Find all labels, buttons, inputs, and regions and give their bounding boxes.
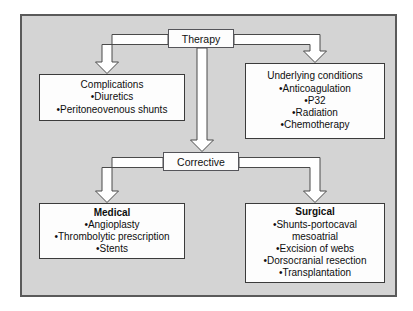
diagram-canvas: Therapy Corrective Complications •Diuret… (0, 0, 413, 311)
node-corrective-label: Corrective (177, 156, 225, 168)
box-medical-item: •Stents (96, 243, 128, 255)
arrow-therapy-to-corrective (191, 48, 214, 152)
box-medical-item: •Thrombolytic prescription (54, 231, 169, 243)
arrow-therapy-to-complications (96, 35, 169, 74)
box-underlying-conditions[interactable]: Underlying conditions •Anticoagulation •… (245, 63, 385, 139)
arrow-corrective-to-surgical (239, 158, 327, 203)
box-underlying-item: •Chemotherapy (280, 119, 349, 131)
arrow-corrective-to-medical (96, 158, 164, 203)
box-complications[interactable]: Complications •Diuretics •Peritoneovenou… (39, 74, 185, 121)
box-complications-item: •Diuretics (91, 91, 133, 103)
box-medical[interactable]: Medical •Angioplasty •Thrombolytic presc… (39, 203, 185, 259)
box-surgical-item: •Excision of webs (276, 243, 354, 255)
box-complications-heading: Complications (81, 79, 144, 91)
box-surgical-item-cont: mesoatrial (292, 231, 338, 243)
arrow-therapy-to-underlying (234, 35, 327, 63)
node-therapy-label: Therapy (182, 33, 221, 45)
box-underlying-item: •P32 (304, 95, 325, 107)
box-surgical-heading: Surgical (295, 206, 334, 218)
box-complications-item: •Peritoneovenous shunts (57, 104, 168, 116)
box-surgical[interactable]: Surgical •Shunts-portocaval mesoatrial •… (245, 203, 385, 283)
box-medical-heading: Medical (94, 207, 131, 219)
box-surgical-item: •Transplantation (279, 267, 351, 279)
node-corrective[interactable]: Corrective (163, 152, 239, 171)
box-medical-item: •Angioplasty (84, 219, 139, 231)
node-therapy[interactable]: Therapy (168, 29, 234, 48)
box-surgical-item: •Shunts-portocaval (273, 219, 357, 231)
box-underlying-item: •Radiation (292, 107, 338, 119)
box-surgical-item: •Dorsocranial resection (264, 255, 367, 267)
box-underlying-heading: Underlying conditions (267, 70, 363, 82)
box-underlying-item: •Anticoagulation (279, 83, 351, 95)
